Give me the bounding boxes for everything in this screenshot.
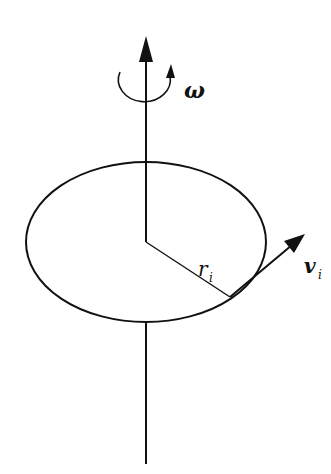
curl-arrowhead-icon [166, 64, 175, 78]
velocity-label: v [304, 254, 316, 278]
radius-subscript: i [209, 271, 213, 285]
radius-label: r [198, 257, 209, 281]
radius-line [146, 242, 230, 297]
axis-arrowhead-icon [139, 36, 153, 62]
rotation-diagram: ω r i v i [0, 0, 331, 474]
angular-velocity-curl-icon [118, 72, 170, 102]
diagram-canvas: ω r i v i [0, 0, 331, 474]
omega-label: ω [184, 77, 205, 103]
velocity-vector [230, 245, 292, 297]
velocity-subscript: i [318, 268, 322, 282]
